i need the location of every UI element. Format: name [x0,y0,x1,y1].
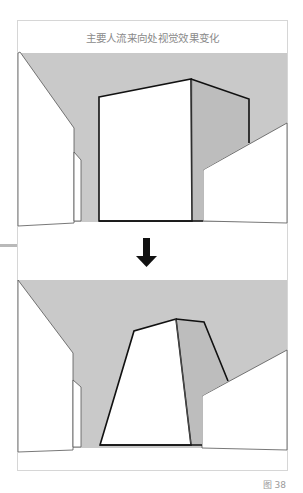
perspective-diagram [0,0,303,493]
down-arrow-icon [136,238,157,267]
panel-after [18,280,287,452]
left-small-building [73,380,81,447]
panel-before [18,52,287,226]
box-front-face [99,79,192,221]
figure-caption: 图 38 [263,478,286,491]
left-small-building [74,152,81,221]
